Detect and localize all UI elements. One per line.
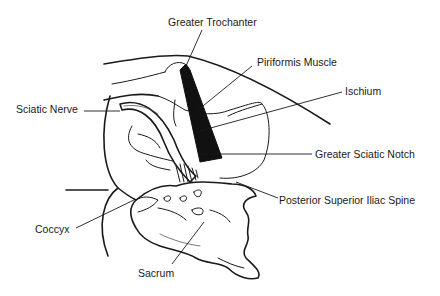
label-piriformis-muscle: Piriformis Muscle [257, 57, 337, 68]
label-sacrum: Sacrum [138, 268, 174, 279]
buttock-line [104, 94, 158, 100]
obturator-inner [138, 134, 160, 148]
sacral-ridge-2 [210, 210, 230, 222]
sacral-foramen-1 [164, 196, 171, 201]
sacral-foramen-4 [192, 208, 203, 215]
leader-coccyx [76, 200, 134, 228]
label-greater-trochanter: Greater Trochanter [168, 17, 257, 28]
sacral-foramen-3 [194, 190, 201, 197]
sacral-tail [218, 258, 244, 268]
leader-greater-trochanter [186, 30, 202, 66]
coccyx-shape [136, 197, 158, 212]
label-coccyx: Coccyx [35, 224, 69, 235]
label-posterior-superior-iliac-spine: Posterior Superior Iliac Spine [279, 195, 415, 206]
sacral-ridge [158, 208, 186, 220]
sacral-foramen-2 [180, 196, 187, 201]
leader-sacrum [172, 222, 204, 264]
lower-buttock-curve [102, 188, 118, 256]
ischial-curve [146, 160, 170, 170]
leader-posterior-superior-iliac-spine [236, 182, 278, 198]
diagram-canvas: Greater Trochanter Piriformis Muscle Isc… [0, 0, 440, 296]
label-ischium: Ischium [345, 86, 381, 97]
buttock-curve [104, 96, 136, 200]
sacrum-outline [131, 182, 259, 279]
sciatic-nerve-shape [120, 103, 196, 183]
label-greater-sciatic-notch: Greater Sciatic Notch [315, 149, 415, 160]
thigh-inner-line [112, 72, 165, 84]
label-sciatic-nerve: Sciatic Nerve [16, 104, 78, 115]
leader-piriformis-muscle [198, 66, 252, 110]
